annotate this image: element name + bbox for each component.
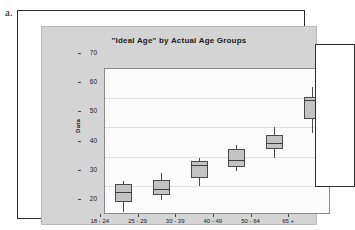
box-plot bbox=[191, 158, 208, 186]
box-iqr bbox=[153, 180, 170, 195]
gridline bbox=[105, 157, 329, 158]
y-tick-label: 60 bbox=[67, 78, 97, 85]
median-line bbox=[191, 165, 208, 166]
y-tick-mark bbox=[78, 111, 81, 112]
median-line bbox=[228, 160, 245, 161]
chart-title: "Ideal Age" by Actual Age Groups bbox=[42, 36, 316, 45]
x-tick-mark bbox=[138, 214, 139, 217]
y-tick-label: 50 bbox=[67, 107, 97, 114]
box-plot bbox=[266, 127, 283, 158]
gridline bbox=[105, 98, 329, 99]
box-iqr bbox=[266, 135, 283, 150]
x-tick-label: 18 - 24 bbox=[90, 218, 109, 224]
box-plot bbox=[115, 181, 132, 212]
x-tick-mark bbox=[213, 214, 214, 217]
x-tick-mark bbox=[100, 214, 101, 217]
x-tick-label: 25 - 29 bbox=[128, 218, 147, 224]
y-tick-mark bbox=[78, 82, 81, 83]
x-tick-mark bbox=[288, 214, 289, 217]
adjacent-panel bbox=[315, 44, 355, 187]
figure-outer-frame: "Ideal Age" by Actual Age Groups Data 20… bbox=[17, 10, 305, 219]
y-tick-mark bbox=[78, 170, 81, 171]
y-tick-mark bbox=[78, 53, 81, 54]
box-iqr bbox=[228, 149, 245, 167]
box-plot bbox=[153, 173, 170, 201]
x-tick-label: 30 - 39 bbox=[166, 218, 185, 224]
median-line bbox=[153, 189, 170, 190]
x-tick-label: 50 - 64 bbox=[241, 218, 260, 224]
y-tick-label: 40 bbox=[67, 137, 97, 144]
y-tick-mark bbox=[78, 199, 81, 200]
y-tick-label: 20 bbox=[67, 195, 97, 202]
figure-label: a. bbox=[5, 6, 13, 18]
x-tick-mark bbox=[175, 214, 176, 217]
plot-area bbox=[104, 68, 330, 214]
x-tick-label: 40 - 49 bbox=[203, 218, 222, 224]
y-tick-mark bbox=[78, 141, 81, 142]
gridline bbox=[105, 127, 329, 128]
x-tick-label: 65 + bbox=[282, 218, 294, 224]
gridline bbox=[105, 186, 329, 187]
median-line bbox=[266, 143, 283, 144]
chart-panel: "Ideal Age" by Actual Age Groups Data 20… bbox=[41, 26, 317, 225]
box-iqr bbox=[191, 161, 208, 179]
x-tick-mark bbox=[251, 214, 252, 217]
y-tick-label: 70 bbox=[67, 49, 97, 56]
y-axis-label: Data bbox=[75, 119, 81, 133]
box-plot bbox=[228, 145, 245, 171]
median-line bbox=[115, 192, 132, 193]
box-iqr bbox=[115, 184, 132, 202]
y-tick-label: 30 bbox=[67, 166, 97, 173]
